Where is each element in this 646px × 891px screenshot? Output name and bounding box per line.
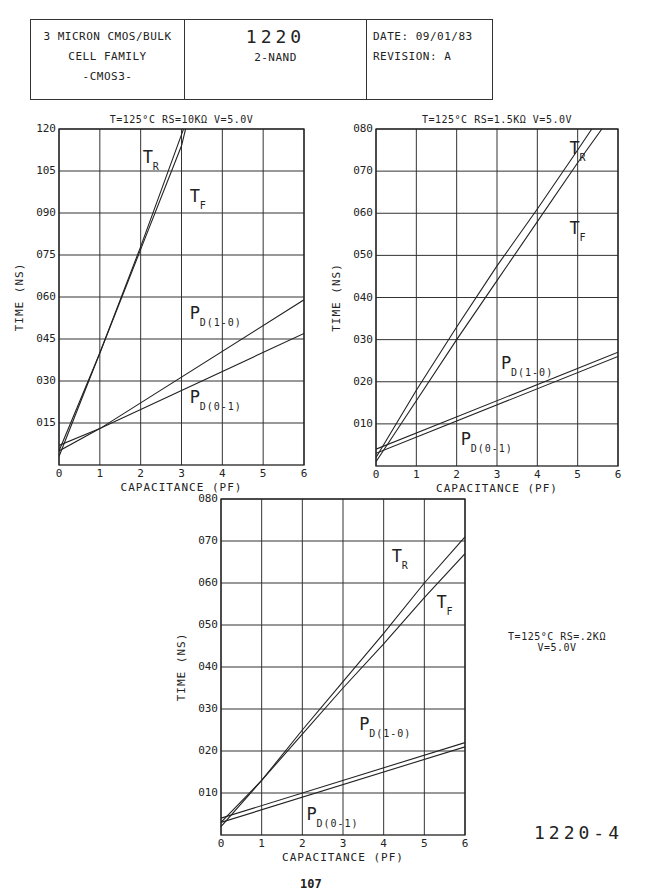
cell-name: 2-NAND [185,51,366,64]
series-label-subscript: F [200,200,207,211]
series-label-subscript: R [402,560,409,571]
y-tick-label: 050 [198,618,218,631]
series-line-t-r [376,129,592,458]
y-tick-label: 020 [353,375,373,388]
series-label: T [143,147,153,167]
series-label: T [570,218,580,238]
y-tick-label: 040 [353,291,373,304]
figure-id: 1220-4 [534,822,623,843]
process-line-3: -CMOS3- [31,67,184,87]
y-tick-label: 030 [198,702,218,715]
series-label: P [190,303,200,323]
x-tick-label: 2 [299,837,306,850]
y-tick-label: 060 [353,206,373,219]
y-tick-label: 060 [198,576,218,589]
y-tick-label: 060 [36,290,56,303]
y-tick-label: 090 [36,206,56,219]
chart-rs-1-5k: 0123456080070060050040030020010CAPACITAN… [316,109,638,506]
series-label-subscript: D(0-1) [200,401,242,412]
y-tick-label: 040 [198,660,218,673]
series-label: P [501,353,511,373]
y-tick-label: 030 [353,333,373,346]
series-label: T [570,138,580,158]
conditions-line-2: V=5.0V [497,642,617,653]
series-label-subscript: F [447,606,454,617]
title-block: 3 MICRON CMOS/BULK CELL FAMILY -CMOS3- 1… [30,19,493,100]
series-line-t-f [376,129,602,462]
y-tick-label: 070 [353,164,373,177]
series-label: P [306,804,316,824]
x-tick-label: 4 [534,468,541,481]
y-axis-label: TIME (NS) [175,633,188,702]
x-tick-label: 6 [462,837,469,850]
x-tick-label: 3 [340,837,347,850]
title-block-cell: 1220 2-NAND [185,20,367,99]
series-label-subscript: D(1-0) [200,317,242,328]
y-tick-label: 020 [198,744,218,757]
series-label-subscript: R [153,161,160,172]
x-tick-label: 0 [218,837,225,850]
series-label: P [359,714,369,734]
x-axis-label: CAPACITANCE (PF) [282,851,404,864]
x-tick-label: 3 [494,468,501,481]
grid [59,129,304,465]
y-axis-label: TIME (NS) [13,263,26,332]
revision-label: REVISION: A [373,47,492,67]
series-label-subscript: D(0-1) [316,818,358,829]
x-tick-label: 5 [421,837,428,850]
y-tick-label: 010 [353,417,373,430]
y-tick-label: 030 [36,374,56,387]
y-axis-label: TIME (NS) [330,263,343,332]
conditions-line-1: T=125°C RS=.2KΩ [497,631,617,642]
chart-rs-0-2k: 0123456080070060050040030020010CAPACITAN… [161,479,485,875]
title-block-process: 3 MICRON CMOS/BULK CELL FAMILY -CMOS3- [31,20,185,99]
date-label: DATE: 09/01/83 [373,27,492,47]
process-line-2: CELL FAMILY [31,47,184,67]
y-tick-label: 045 [36,332,56,345]
chart-3-conditions: T=125°C RS=.2KΩ V=5.0V [497,631,617,653]
y-tick-label: 105 [36,164,56,177]
process-line-1: 3 MICRON CMOS/BULK [31,27,184,47]
y-tick-label: 010 [198,786,218,799]
series-label-subscript: F [580,232,587,243]
y-tick-label: 080 [198,492,218,505]
y-tick-label: 050 [353,248,373,261]
series-label-subscript: D(1-0) [511,367,553,378]
grid [376,129,618,466]
x-tick-label: 6 [615,468,622,481]
series-label: P [461,429,471,449]
series-label: T [190,186,200,206]
x-tick-label: 1 [258,837,265,850]
y-tick-label: 070 [198,534,218,547]
cell-number: 1220 [185,26,366,47]
x-tick-label: 2 [137,467,144,480]
x-tick-label: 1 [97,467,104,480]
x-tick-label: 0 [56,467,63,480]
series-label-subscript: D(1-0) [369,728,411,739]
y-tick-label: 120 [36,122,56,135]
y-tick-label: 075 [36,248,56,261]
x-tick-label: 4 [380,837,387,850]
chart-title: T=125°C RS=10KΩ V=5.0V [110,114,253,125]
series-label-subscript: D(0-1) [471,443,513,454]
page-number: 107 [300,877,322,891]
y-tick-label: 015 [36,416,56,429]
title-block-meta: DATE: 09/01/83 REVISION: A [367,20,492,99]
series-label: P [190,387,200,407]
chart-rs-10k: 0123456120105090075060045030015CAPACITAN… [0,109,324,505]
chart-title: T=125°C RS=1.5KΩ V=5.0V [422,114,572,125]
series-label: T [392,546,402,566]
y-tick-label: 080 [353,122,373,135]
series-line-t-f [59,129,186,451]
series-label: T [437,592,447,612]
x-tick-label: 5 [574,468,581,481]
